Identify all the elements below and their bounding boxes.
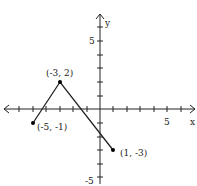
point-label: (1, -3) [120,148,147,158]
point-marker [31,121,35,125]
x-tick-label-5: 5 [164,117,170,127]
point-label: (-5, -1) [37,122,67,132]
y-axis-label: y [104,18,111,28]
y-tick-label-neg5: -5 [85,176,94,186]
coordinate-graph: x y 5 5 -5 (-5, -1) (-3, 2) (1, -3) [0,0,197,186]
y-tick-label-5: 5 [89,36,95,46]
point-marker [111,148,115,152]
x-axis-label: x [190,117,195,127]
point-label: (-3, 2) [46,68,73,78]
graph-line [33,82,113,150]
point-marker [58,80,62,84]
y-axis [96,14,104,184]
